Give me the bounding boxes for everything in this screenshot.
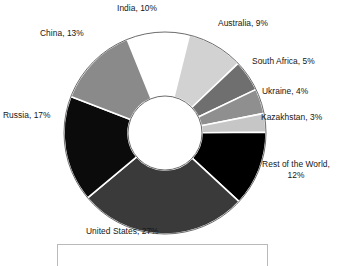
slice-label-kazakhstan: Kazakhstan, 3%	[261, 112, 322, 123]
slice-label-south-africa: South Africa, 5%	[252, 56, 315, 67]
slice-label-india: India, 10%	[117, 3, 157, 14]
slice-label-rest-of-the-world: Rest of the World, 12%	[253, 159, 339, 180]
donut-slice-layer	[64, 32, 266, 234]
donut-hole	[128, 96, 202, 170]
slice-label-united-states: United States, 27%	[86, 226, 159, 237]
slice-label-china: China, 13%	[40, 28, 84, 39]
caption-box	[57, 244, 268, 266]
slice-label-russia: Russia, 17%	[3, 110, 51, 121]
slice-label-australia: Australia, 9%	[218, 18, 268, 29]
slice-label-ukraine: Ukraine, 4%	[262, 86, 308, 97]
